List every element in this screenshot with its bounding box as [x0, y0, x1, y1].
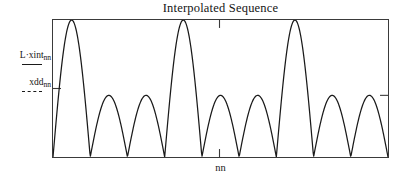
legend-swatch-solid-line — [22, 64, 42, 65]
legend-key-l-xint — [8, 61, 52, 70]
legend-label-xdd-text: xdd — [29, 77, 43, 87]
plot-svg — [53, 20, 388, 157]
plot-area — [52, 19, 389, 158]
legend-key-xdd — [8, 88, 52, 97]
series-line-l-xint — [53, 20, 388, 157]
legend-entry-l-xint: L·xintnn — [8, 50, 52, 70]
legend-swatch-dashed-line — [22, 91, 42, 92]
axis-ticks — [53, 20, 388, 157]
legend-label-l-xint-text: L·xint — [20, 50, 44, 60]
x-axis-label: nn — [52, 161, 389, 175]
chart-legend: L·xintnn xddnn — [8, 50, 52, 97]
legend-label-xdd: xddnn — [8, 77, 52, 88]
legend-label-l-xint: L·xintnn — [8, 50, 52, 61]
legend-entry-xdd: xddnn — [8, 77, 52, 97]
chart-title: Interpolated Sequence — [52, 0, 389, 17]
chart-figure: Interpolated Sequence L·xintnn xddnn — [0, 0, 404, 181]
